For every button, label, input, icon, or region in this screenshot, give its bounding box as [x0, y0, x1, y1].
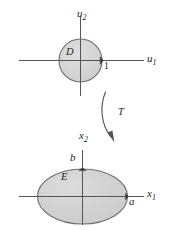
u2-axis-label: u2 [77, 8, 86, 21]
transformation-arrow-group [102, 92, 115, 143]
transformation-arrow-curve [102, 92, 111, 137]
x1-axis-label: x1 [147, 188, 156, 201]
region-label-D: D [66, 47, 74, 58]
x1-axis-label-subscript: 1 [152, 193, 156, 202]
semi-major-label-a: a [129, 196, 135, 207]
region-label-E: E [61, 172, 67, 183]
transformation-diagram: u2 u1 D 1 T x2 x1 E b a [0, 0, 173, 230]
u1-axis-label-subscript: 1 [153, 58, 157, 67]
x2-axis-label-subscript: 2 [84, 135, 88, 144]
range-panel-graphics [19, 150, 144, 225]
transformation-arrow-head [107, 131, 114, 143]
u2-axis-label-subscript: 2 [83, 13, 87, 22]
u1-axis-label: u1 [147, 53, 156, 66]
unit-value-label: 1 [104, 62, 109, 72]
domain-panel-graphics [19, 17, 144, 96]
semi-minor-label-b: b [70, 152, 76, 163]
x2-axis-label: x2 [79, 130, 88, 143]
transformation-label-T: T [118, 107, 124, 118]
